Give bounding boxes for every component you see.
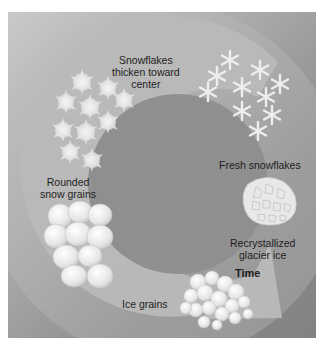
label-recrystallized-glacier-ice: Recrystallized glacier ice: [230, 237, 295, 261]
label-line: thicken toward: [112, 66, 180, 78]
diagram-panel: Snowflakes thicken toward center Fresh s…: [8, 12, 316, 338]
label-line: Snowflakes: [112, 54, 180, 66]
label-line: glacier ice: [230, 249, 295, 261]
label-line: snow grains: [40, 188, 96, 200]
label-rounded-snow-grains: Rounded snow grains: [40, 176, 96, 200]
label-line: Rounded: [40, 176, 96, 188]
label-ice-grains: Ice grains: [122, 298, 168, 310]
label-line: Recrystallized: [230, 237, 295, 249]
label-fresh-snowflakes: Fresh snowflakes: [219, 159, 301, 171]
label-line: center: [112, 78, 180, 90]
label-snowflakes-thicken: Snowflakes thicken toward center: [112, 54, 180, 90]
label-time: Time: [235, 267, 260, 279]
